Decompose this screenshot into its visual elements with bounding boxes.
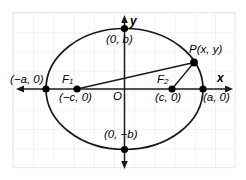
y-axis-label: y <box>130 15 137 27</box>
point-p-label: P(x, y) <box>189 44 222 56</box>
point-top-vertex <box>121 25 128 32</box>
left-vertex-label: (−a, 0) <box>10 74 44 86</box>
focus-2-label: F2 <box>157 74 168 86</box>
origin-label: O <box>113 91 122 103</box>
top-vertex-label: (0, b) <box>106 34 133 46</box>
figure-canvas <box>0 0 246 180</box>
point-bottom-vertex <box>121 146 128 153</box>
focus-1-subscript: 1 <box>69 77 73 86</box>
right-vertex-label: (a, 0) <box>203 92 230 104</box>
x-axis-label: x <box>217 72 224 84</box>
focus-1-name: F <box>62 73 69 85</box>
point-p <box>190 59 198 67</box>
focus-2-coordinate-label: (c, 0) <box>155 92 181 104</box>
bottom-vertex-label: (0, −b) <box>104 129 138 141</box>
focus-1-label: F1 <box>62 74 73 86</box>
focus-2-name: F <box>157 73 164 85</box>
focus-1-coordinate-label: (−c, 0) <box>59 92 92 104</box>
ellipse-figure: y x O (0, b) (0, −b) (−a, 0) (a, 0) F1 (… <box>0 0 246 180</box>
point-left-vertex <box>42 85 49 92</box>
focus-2-subscript: 2 <box>164 77 168 86</box>
